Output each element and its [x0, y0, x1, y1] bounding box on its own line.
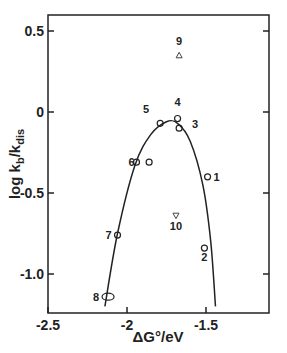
data-point-circle	[205, 174, 211, 180]
x-axis-title: ΔG°/eV	[133, 328, 184, 345]
chart: -2.5-2-1.50.50-0.5-1.0 12345678910 ΔG°/e…	[0, 0, 287, 353]
y-tick-label: 0.5	[25, 23, 45, 39]
point-label: 3	[192, 118, 198, 130]
data-point-triangle-down	[173, 213, 179, 219]
data-point-triangle-up	[176, 52, 182, 58]
data-point-circle	[176, 125, 182, 131]
point-label: 1	[214, 171, 220, 183]
point-label: 6	[128, 156, 134, 168]
x-tick-label: -2.5	[36, 317, 60, 333]
point-label: 10	[170, 220, 182, 232]
data-point-circle	[146, 159, 152, 165]
x-tick-label: -1.5	[194, 317, 218, 333]
y-tick-label: 0	[36, 104, 44, 120]
y-tick-label: -0.5	[20, 185, 44, 201]
fit-curve	[105, 121, 216, 307]
point-label: 5	[143, 103, 149, 115]
data-point-circle	[102, 293, 114, 300]
tick-labels: -2.5-2-1.50.50-0.5-1.0	[20, 23, 218, 333]
point-label: 7	[105, 229, 111, 241]
data-point-circle	[175, 115, 181, 121]
point-label: 8	[93, 291, 99, 303]
point-label: 2	[201, 251, 207, 263]
axis-ticks	[48, 31, 269, 313]
plot-frame	[48, 15, 269, 313]
point-label: 4	[174, 96, 181, 108]
data-markers	[102, 52, 211, 300]
y-tick-label: -1.0	[20, 266, 44, 282]
point-label: 9	[176, 35, 182, 47]
